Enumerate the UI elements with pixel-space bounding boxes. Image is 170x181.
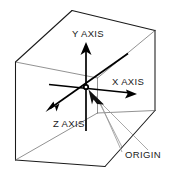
origin-dot-inner [85, 86, 88, 89]
x-axis-label: X AXIS [112, 76, 144, 87]
cube-edge-bottom-left [16, 160, 106, 167]
cube-edge-top-back-left [16, 11, 73, 63]
z-axis-label: Z AXIS [53, 118, 85, 129]
origin-pointer-arrow [89, 90, 105, 105]
diagram-canvas: Y AXIS X AXIS Z AXIS ORIGIN [0, 0, 170, 181]
x-axis-arrowhead [125, 90, 137, 99]
coordinate-axes-diagram: Y AXIS X AXIS Z AXIS ORIGIN [0, 0, 170, 181]
origin-label: ORIGIN [125, 149, 161, 160]
origin-leader-cross [99, 101, 148, 150]
cube-edge-bottom-back-right [98, 111, 156, 114]
origin-point [83, 84, 89, 90]
y-axis-label: Y AXIS [72, 28, 104, 39]
origin-leader-lower [99, 100, 122, 152]
pointer-arrow-head [89, 90, 105, 105]
